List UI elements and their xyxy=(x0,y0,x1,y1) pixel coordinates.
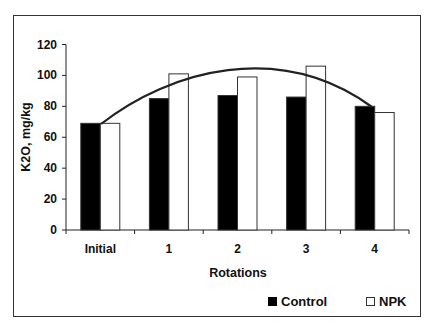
bar-npk xyxy=(306,66,326,230)
y-tick-label: 0 xyxy=(50,223,57,237)
control-swatch-icon xyxy=(268,297,277,306)
bar-npk xyxy=(375,113,395,230)
bar-control xyxy=(287,97,307,230)
x-tick-label: 3 xyxy=(303,242,310,256)
x-tick-label: 1 xyxy=(166,242,173,256)
legend-control-label: Control xyxy=(281,294,327,309)
x-axis-title: Rotations xyxy=(209,266,267,280)
bar-npk xyxy=(100,123,120,230)
y-tick-label: 100 xyxy=(37,68,57,82)
y-axis-title: K2O, mg/kg xyxy=(19,102,33,171)
y-tick-label: 20 xyxy=(44,192,58,206)
bar-chart: 020406080100120Initial1234RotationsK2O, … xyxy=(0,0,434,330)
x-tick-label: 2 xyxy=(234,242,241,256)
legend-control: Control xyxy=(268,294,327,309)
y-tick-label: 80 xyxy=(44,99,58,113)
bar-control xyxy=(149,99,169,230)
y-tick-label: 60 xyxy=(44,130,58,144)
bar-control xyxy=(81,123,101,230)
bar-control xyxy=(218,96,238,230)
bar-npk xyxy=(238,77,258,230)
y-tick-label: 40 xyxy=(44,161,58,175)
bar-control xyxy=(355,106,375,230)
bar-npk xyxy=(169,74,189,230)
x-tick-label: 4 xyxy=(371,242,378,256)
y-tick-label: 120 xyxy=(37,38,57,52)
legend-npk: NPK xyxy=(366,294,406,309)
x-tick-label: Initial xyxy=(85,242,116,256)
npk-swatch-icon xyxy=(366,297,375,306)
legend-npk-label: NPK xyxy=(379,294,406,309)
